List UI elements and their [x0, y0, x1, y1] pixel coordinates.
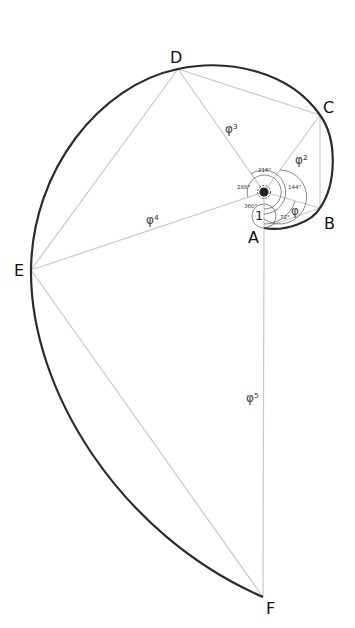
segment-label-1: 1 [255, 208, 263, 223]
point-label-group: A B C D E F [14, 48, 335, 618]
angle-label-144: 144° [288, 184, 301, 190]
angle-label-72: 72° [280, 214, 290, 220]
center-dot [260, 188, 269, 197]
radial-guides [31, 69, 320, 270]
radius-OC [264, 115, 320, 192]
chord-EF [31, 270, 263, 597]
angle-label-216: 216° [258, 167, 271, 173]
segment-label-phi2: φ² [295, 153, 308, 167]
golden-spiral-curve [31, 65, 333, 597]
segment-label-phi4: φ⁴ [146, 213, 159, 227]
line-AF [263, 228, 264, 597]
segment-label-phi: φ [291, 204, 299, 218]
golden-spiral-diagram: 72° 144° 216° 288° 360° 1 φ φ² φ³ φ⁴ φ⁵ … [0, 0, 355, 628]
point-label-C: C [323, 98, 334, 117]
point-label-E: E [14, 261, 24, 280]
point-label-B: B [324, 214, 335, 233]
chord-DE [31, 69, 178, 270]
radius-OE [31, 192, 264, 270]
segment-label-phi5: φ⁵ [246, 391, 259, 405]
point-label-D: D [170, 48, 182, 67]
angle-label-288: 288° [237, 184, 250, 190]
segment-label-phi3: φ³ [225, 122, 238, 136]
point-label-A: A [248, 228, 259, 247]
point-label-F: F [266, 599, 275, 618]
chord-guides [31, 69, 320, 597]
